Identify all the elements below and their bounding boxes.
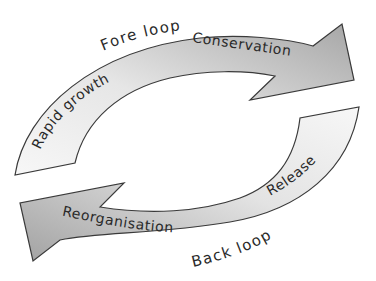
adaptive-cycle-diagram: Fore loop Rapid growth Conservation Rele… [0,0,376,281]
diagram-svg: Fore loop Rapid growth Conservation Rele… [0,0,376,281]
back-loop-label: Back loop [190,225,275,271]
